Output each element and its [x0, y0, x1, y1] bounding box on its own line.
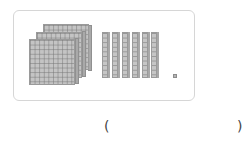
one-unit-cube [173, 74, 177, 78]
rod-side [118, 32, 120, 78]
hundred-flat-1 [29, 39, 75, 85]
answer-blank[interactable] [150, 118, 220, 134]
rod-side [148, 32, 150, 78]
rod-side [157, 32, 159, 78]
close-paren: ) [237, 118, 242, 134]
rod-side [108, 32, 110, 78]
rod-side [128, 32, 130, 78]
open-paren: ( [104, 118, 109, 134]
flat-side [75, 38, 79, 84]
rod-side [138, 32, 140, 78]
flat-side [82, 31, 86, 77]
